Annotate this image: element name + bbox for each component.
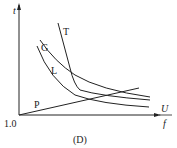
figure-caption: (D) <box>73 134 87 146</box>
curve-label-G: G <box>41 42 48 53</box>
diagram: t T G L P 1.0 U f (D) <box>0 0 177 148</box>
y-axis-arrow-icon <box>17 3 21 10</box>
curve-label-P: P <box>34 99 40 110</box>
origin-label: 1.0 <box>4 118 17 129</box>
x-axis-label-denominator: f <box>163 118 167 129</box>
y-axis-label: t <box>13 5 16 16</box>
curve-label-L: L <box>51 65 57 76</box>
curve-label-T: T <box>63 26 69 37</box>
x-axis-label-numerator: U <box>161 103 169 114</box>
